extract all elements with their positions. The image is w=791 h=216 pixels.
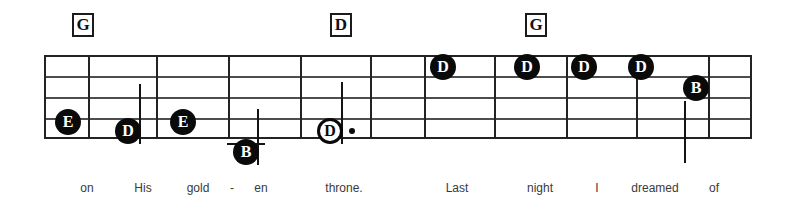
staff-line — [44, 118, 750, 120]
staff-line — [44, 137, 750, 139]
notehead-b[interactable]: B — [233, 139, 259, 165]
notehead-d[interactable]: D — [514, 54, 540, 80]
music-sheet-canvas: GDG EDEBDDDDDB onHisgold-enthrone.Lastni… — [0, 0, 791, 216]
lyric-hyphen: - — [230, 181, 234, 195]
staff-end-barline — [750, 55, 752, 139]
notehead-d[interactable]: D — [115, 118, 141, 144]
barline — [156, 55, 158, 139]
notehead-d[interactable]: D — [571, 54, 597, 80]
notehead-d[interactable]: D — [628, 54, 654, 80]
lyric-syllable: His — [134, 181, 151, 195]
lyric-syllable: Last — [446, 181, 469, 195]
barline — [300, 55, 302, 139]
barline — [424, 55, 426, 139]
notehead-d[interactable]: D — [430, 54, 456, 80]
barline — [566, 55, 568, 139]
barline — [494, 55, 496, 139]
note-stem — [684, 101, 686, 163]
chord-symbol-d[interactable]: D — [330, 13, 352, 37]
lyric-syllable: I — [595, 181, 598, 195]
chord-symbol-g[interactable]: G — [525, 13, 547, 37]
notehead-e[interactable]: E — [170, 109, 196, 135]
lyric-syllable: en — [254, 181, 267, 195]
lyric-syllable: on — [80, 181, 93, 195]
chord-symbol-g[interactable]: G — [72, 13, 94, 37]
lyric-syllable: gold — [187, 181, 210, 195]
staff-start-barline — [44, 55, 46, 139]
lyric-syllable: of — [709, 181, 719, 195]
notehead-b[interactable]: B — [683, 75, 709, 101]
lyric-syllable: dreamed — [631, 181, 678, 195]
barline — [228, 55, 230, 139]
lyric-syllable: throne. — [325, 181, 362, 195]
barline — [708, 55, 710, 139]
barline — [88, 55, 90, 139]
staff-line — [44, 97, 750, 99]
notehead-e[interactable]: E — [55, 109, 81, 135]
augmentation-dot — [349, 128, 355, 134]
notehead-d[interactable]: D — [317, 118, 343, 144]
barline — [370, 55, 372, 139]
lyric-syllable: night — [527, 181, 553, 195]
